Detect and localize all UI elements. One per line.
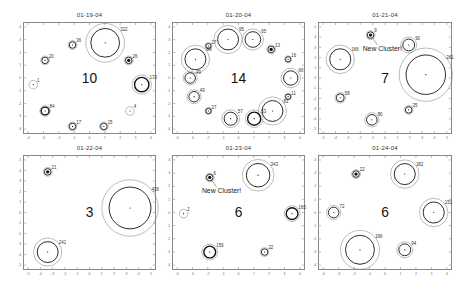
panel-title: 01-22-04 xyxy=(23,145,156,151)
svg-text:5: 5 xyxy=(19,158,21,162)
svg-text:4: 4 xyxy=(19,169,21,173)
cluster-size-label: 159 xyxy=(216,243,224,248)
svg-text:-2: -2 xyxy=(18,102,21,106)
svg-text:3: 3 xyxy=(314,46,316,50)
cluster-panel-2: 01-20-04 -4-3-2-10123443210-1-2-3-414956… xyxy=(172,22,305,134)
svg-text:2: 2 xyxy=(314,184,316,188)
svg-text:4: 4 xyxy=(19,25,21,29)
panel-title: 01-20-04 xyxy=(172,12,305,18)
svg-text:-1: -1 xyxy=(18,221,21,225)
svg-text:-3: -3 xyxy=(167,250,170,254)
cluster-marker: 17 xyxy=(68,120,82,131)
cluster-marker: 322 xyxy=(86,23,128,62)
svg-text:0: 0 xyxy=(89,136,91,140)
svg-text:-2: -2 xyxy=(313,237,316,241)
cluster-size-label: 66 xyxy=(299,68,304,73)
svg-text:-3: -3 xyxy=(313,107,316,111)
cluster-marker: 20 xyxy=(41,54,55,65)
svg-text:0: 0 xyxy=(384,272,386,276)
cluster-size-label: 89 xyxy=(206,47,211,52)
cluster-size-label: 173 xyxy=(150,75,158,80)
svg-text:-4: -4 xyxy=(176,272,179,276)
cluster-count: 6 xyxy=(381,205,389,220)
svg-text:-3: -3 xyxy=(42,136,45,140)
svg-text:3: 3 xyxy=(168,38,170,42)
cluster-size-label: 166 xyxy=(351,47,359,52)
svg-text:2: 2 xyxy=(168,51,170,55)
svg-text:4: 4 xyxy=(299,272,301,276)
cluster-marker: 2 xyxy=(179,207,190,218)
cluster-marker: 182 xyxy=(391,160,424,188)
cluster-size-label: 84 xyxy=(50,104,55,109)
cluster-marker: 22 xyxy=(260,245,274,256)
svg-text:4: 4 xyxy=(314,158,316,162)
new-cluster-annotation: New Cluster! xyxy=(202,187,241,194)
svg-text:3: 3 xyxy=(430,272,432,276)
svg-text:1: 1 xyxy=(101,272,103,276)
cluster-size-label: 9 xyxy=(374,28,377,33)
cluster-marker: 21 xyxy=(43,165,57,176)
svg-text:-2: -2 xyxy=(63,272,66,276)
svg-text:4: 4 xyxy=(314,35,316,39)
cluster-panel-3: 01-21-04 -5-4-3-2-1012345543210-1-2-3-4-… xyxy=(318,22,452,134)
cluster-size-label: 49 xyxy=(196,70,201,75)
cluster-marker: 159 xyxy=(202,243,224,260)
cluster-size-label: 57 xyxy=(238,109,243,114)
svg-text:-3: -3 xyxy=(337,272,340,276)
svg-text:-2: -2 xyxy=(313,97,316,101)
svg-text:-5: -5 xyxy=(27,272,30,276)
svg-text:1: 1 xyxy=(168,63,170,67)
svg-text:0: 0 xyxy=(89,272,91,276)
cluster-marker: 65 xyxy=(242,29,266,50)
svg-text:0: 0 xyxy=(19,76,21,80)
svg-text:-3: -3 xyxy=(313,250,316,254)
svg-text:2: 2 xyxy=(415,272,417,276)
cluster-size-label: 36 xyxy=(76,38,81,43)
cluster-marker: 13 xyxy=(267,43,281,54)
svg-text:0: 0 xyxy=(19,211,21,215)
cluster-size-label: 322 xyxy=(120,27,128,32)
svg-text:1: 1 xyxy=(19,200,21,204)
cluster-size-label: 72 xyxy=(339,204,344,209)
svg-text:3: 3 xyxy=(284,272,286,276)
svg-text:4: 4 xyxy=(168,25,170,29)
svg-text:3: 3 xyxy=(284,136,286,140)
svg-text:-2: -2 xyxy=(206,136,209,140)
svg-text:0: 0 xyxy=(384,136,386,140)
svg-text:-2: -2 xyxy=(57,136,60,140)
new-cluster-annotation: New Cluster! xyxy=(363,45,402,52)
svg-text:3: 3 xyxy=(125,272,127,276)
svg-text:3: 3 xyxy=(314,171,316,175)
cluster-marker: 90 xyxy=(401,36,421,53)
cluster-marker: 261 xyxy=(399,48,454,101)
cluster-size-label: 4 xyxy=(134,104,137,109)
svg-text:2: 2 xyxy=(19,51,21,55)
cluster-size-label: 13 xyxy=(275,43,280,48)
panel-title: 01-21-04 xyxy=(318,12,452,18)
svg-text:-4: -4 xyxy=(167,263,170,267)
cluster-marker: 66 xyxy=(281,68,304,88)
svg-text:0: 0 xyxy=(168,76,170,80)
cluster-size-label: 80 xyxy=(378,112,383,117)
svg-text:1: 1 xyxy=(104,136,106,140)
scatter-plot: -4-3-2-10123443210-1-2-3-462218272151196… xyxy=(319,156,451,269)
svg-text:-4: -4 xyxy=(18,127,21,131)
cluster-marker: 36 xyxy=(68,38,82,49)
cluster-size-label: 165 xyxy=(299,205,307,210)
plot-axes: -4-3-2-10123443210-1-2-3-463436New Clust… xyxy=(172,155,305,270)
cluster-size-label: 436 xyxy=(152,187,160,192)
cluster-size-label: 182 xyxy=(416,162,424,167)
svg-text:2: 2 xyxy=(268,136,270,140)
cluster-marker: 151 xyxy=(419,198,452,226)
svg-text:3: 3 xyxy=(135,136,137,140)
svg-text:1: 1 xyxy=(400,272,402,276)
cluster-marker: 173 xyxy=(132,75,157,95)
svg-text:4: 4 xyxy=(138,272,140,276)
svg-text:-4: -4 xyxy=(313,263,316,267)
cluster-marker: 343 xyxy=(242,159,278,191)
cluster-marker: 196 xyxy=(340,230,383,269)
cluster-size-label: 343 xyxy=(271,162,279,167)
svg-text:-2: -2 xyxy=(18,232,21,236)
cluster-marker: 4 xyxy=(126,104,137,115)
svg-text:-1: -1 xyxy=(222,272,225,276)
